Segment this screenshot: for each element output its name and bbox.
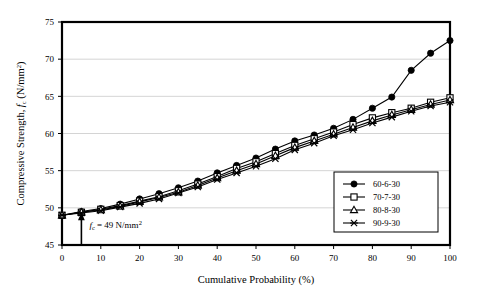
marker-filled-circle — [351, 181, 357, 187]
y-tick-label: 65 — [45, 92, 55, 102]
y-tick-label: 45 — [45, 240, 55, 250]
chart-background — [0, 0, 479, 292]
cumulative-probability-chart: 45505560657075 0102030405060708090100 fc… — [0, 0, 479, 292]
marker-filled-circle — [408, 67, 414, 73]
x-tick-label: 100 — [443, 253, 457, 263]
y-axis-title: Compressive Strength, fc (N/mm2) — [15, 61, 27, 205]
x-tick-label: 40 — [213, 253, 223, 263]
legend-label: 90-9-30 — [373, 218, 400, 228]
annotation-text: fc = 49 N/mm2 — [89, 219, 141, 231]
chart-figure: 45505560657075 0102030405060708090100 fc… — [0, 0, 479, 292]
x-tick-label: 0 — [60, 253, 65, 263]
x-tick-label: 20 — [135, 253, 145, 263]
y-tick-label: 55 — [45, 166, 55, 176]
legend-label: 80-8-30 — [373, 205, 400, 215]
x-tick-label: 60 — [290, 253, 300, 263]
marker-filled-circle — [447, 37, 453, 43]
y-tick-label: 70 — [45, 54, 55, 64]
x-tick-label: 10 — [96, 253, 106, 263]
marker-open-square — [351, 194, 357, 200]
y-tick-label: 50 — [45, 203, 55, 213]
x-tick-label: 90 — [407, 253, 417, 263]
x-tick-label: 30 — [174, 253, 184, 263]
x-tick-label: 80 — [368, 253, 378, 263]
marker-filled-circle — [428, 50, 434, 56]
y-tick-label: 60 — [45, 129, 55, 139]
legend-label: 70-7-30 — [373, 192, 400, 202]
marker-filled-circle — [369, 105, 375, 111]
chart-legend[interactable]: 60-6-3070-7-3080-8-3090-9-30 — [334, 172, 438, 232]
x-axis-title: Cumulative Probability (%) — [198, 274, 315, 286]
y-tick-label: 75 — [45, 17, 55, 27]
legend-label: 60-6-30 — [373, 179, 400, 189]
marker-filled-circle — [389, 94, 395, 100]
x-tick-label: 50 — [252, 253, 262, 263]
x-tick-label: 70 — [329, 253, 339, 263]
